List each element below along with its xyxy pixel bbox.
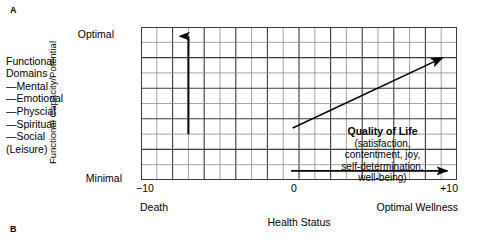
domain-item-physical: —Physcial xyxy=(6,105,122,118)
quality-of-life-callout: Quality of Life (satisfaction, contentme… xyxy=(305,126,460,184)
domain-item-emotional: —Emotional xyxy=(6,92,122,105)
domain-item-spiritual: —Spiritual xyxy=(6,118,122,131)
functional-domains-legend: Optimal Functional Domains —Mental —Emot… xyxy=(6,28,122,155)
x-endcap-optimal-wellness: Optimal Wellness xyxy=(377,201,459,213)
domain-sub-note-leisure: (Leisure) xyxy=(6,143,122,156)
y-axis-title: Functional Capacity/Potential xyxy=(47,13,58,193)
x-tick-min: −10 xyxy=(136,182,154,194)
panel-letter-a: A xyxy=(10,5,17,15)
panel-letter-b: B xyxy=(10,224,17,234)
diagonal-quality-of-life-arrow xyxy=(293,58,443,128)
x-tick-max: +10 xyxy=(440,182,458,194)
domain-item-mental: —Mental xyxy=(6,80,122,93)
chart-plot-area: Quality of Life (satisfaction, contentme… xyxy=(141,27,457,180)
quality-of-life-title: Quality of Life xyxy=(305,126,460,138)
domains-heading-line2: Domains xyxy=(6,67,122,80)
domains-heading-line1: Functional xyxy=(6,55,122,68)
x-tick-mid: 0 xyxy=(291,182,297,194)
x-endcap-death: Death xyxy=(140,201,168,213)
x-axis-title: Health Status xyxy=(267,216,330,228)
minimal-label: Minimal xyxy=(6,172,130,185)
domain-item-social: —Social xyxy=(6,130,122,143)
optimal-label: Optimal xyxy=(6,28,122,41)
functional-domains-list: Functional Domains —Mental —Emotional —P… xyxy=(6,55,122,156)
quality-of-life-body: (satisfaction, contentment, joy, self-de… xyxy=(305,138,460,184)
